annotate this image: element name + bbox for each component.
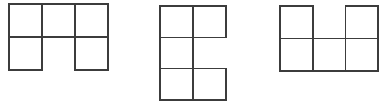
polyomino-figure-3-cell-r0c0 — [280, 6, 313, 39]
figure-canvas — [0, 0, 385, 109]
polyomino-figures-group — [0, 0, 385, 109]
polyomino-figure-2-cell-r0c1 — [193, 6, 226, 37]
polyomino-figure-3-cell-r1c0 — [280, 39, 313, 72]
polyomino-figure-1-cell-r1c2 — [75, 37, 108, 70]
polyomino-figure-2-cell-r0c0 — [160, 6, 193, 37]
polyomino-figure-1-cell-r1c0 — [9, 37, 42, 70]
polyomino-figure-3-cell-r1c2 — [345, 39, 378, 72]
polyomino-figure-2-cell-r2c1 — [193, 69, 226, 100]
polyomino-figure-1-cell-r0c2 — [75, 4, 108, 37]
polyomino-figure-1-cell-r0c1 — [42, 4, 75, 37]
polyomino-figure-2-cell-r2c0 — [160, 69, 193, 100]
polyomino-figure-3-cell-r0c2 — [345, 6, 378, 39]
polyomino-figure-3-cell-r1c1 — [313, 39, 346, 72]
polyomino-figure-2-cell-r1c0 — [160, 37, 193, 68]
polyomino-figure-1 — [9, 4, 108, 70]
polyomino-figure-2 — [160, 6, 226, 100]
polyomino-figure-1-cell-r0c0 — [9, 4, 42, 37]
polyomino-figure-3 — [280, 6, 378, 71]
